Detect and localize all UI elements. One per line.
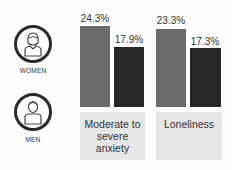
value-label-loneliness-men: 17.3% — [188, 36, 222, 47]
men-label: MEN — [3, 136, 63, 143]
category-label-loneliness: Loneliness — [156, 112, 222, 160]
bar-anxiety-women — [80, 26, 110, 107]
women-label: WOMEN — [3, 67, 63, 74]
woman-icon — [14, 25, 52, 63]
value-label-anxiety-women: 24.3% — [78, 13, 112, 24]
bar-loneliness-women — [156, 29, 186, 107]
value-label-loneliness-women: 23.3% — [154, 15, 188, 26]
man-icon — [14, 93, 52, 131]
bar-loneliness-men — [190, 48, 221, 107]
bar-anxiety-men — [114, 47, 144, 107]
category-label-anxiety: Moderate to severe anxiety — [80, 112, 145, 160]
value-label-anxiety-men: 17.9% — [112, 34, 146, 45]
